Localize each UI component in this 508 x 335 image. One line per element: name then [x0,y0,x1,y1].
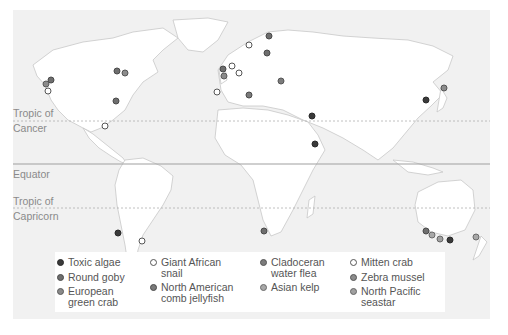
legend-item-mitten-crab: Mitten crab [350,257,425,268]
legend-label: Toxic algae [68,257,125,268]
legend-column-2: Giant AfricansnailNorth Americancomb jel… [150,257,233,307]
marker-mitten-crab [236,70,243,77]
legend-swatch-icon [350,259,357,266]
legend-column-1: Toxic algaeRound gobyEuropeangreen crab [57,257,125,311]
legend-column-4: Mitten crabZebra musselNorth Pacificseas… [350,257,425,311]
legend-label: Asian kelp [271,282,325,293]
equator-label: Equator [13,168,50,180]
legend-swatch-icon [57,259,64,266]
legend-label: water flea [271,268,325,279]
tropic-of-capricorn-label-line2: Capricorn [13,210,59,222]
tropic-of-capricorn-label-line1: Tropic of [13,195,59,207]
legend-item-round-goby: Round goby [57,272,125,283]
marker-toxic-algae [312,141,319,148]
legend-label: green crab [68,297,125,308]
legend-item-asian-kelp: Asian kelp [260,282,325,293]
legend-swatch-icon [57,274,64,281]
legend-label: Round goby [68,272,125,283]
marker-north-american-comb-jellyfish [246,92,253,99]
marker-mitten-crab [45,88,52,95]
marker-european-green-crab [221,73,228,80]
marker-asian-kelp [429,232,436,239]
marker-round-goby [220,66,227,73]
legend-label: Giant African [161,257,233,268]
marker-giant-african-snail [102,123,109,130]
tropic-of-cancer-label-line1: Tropic of [13,107,53,119]
marker-toxic-algae [447,237,454,244]
marker-giant-african-snail [139,238,146,245]
marker-zebra-mussel [122,70,129,77]
legend-label: North American [161,282,233,293]
legend-swatch-icon [260,284,267,291]
legend-item-north-pacific-seastar: North Pacificseastar [350,286,425,307]
marker-mitten-crab [214,89,221,96]
marker-round-goby [261,228,268,235]
marker-toxic-algae [115,230,122,237]
marker-zebra-mussel [441,85,448,92]
legend-item-european-green-crab: Europeangreen crab [57,286,125,307]
legend-item-zebra-mussel: Zebra mussel [350,272,425,283]
tropic-of-cancer-label: Tropic of Cancer [13,107,53,134]
legend-label: European [68,286,125,297]
tropic-of-capricorn-label: Tropic of Capricorn [13,195,59,222]
marker-north-pacific-seastar [437,236,444,243]
legend-swatch-icon [150,284,157,291]
legend-label: Zebra mussel [361,272,425,283]
legend-label: seastar [361,297,425,308]
marker-round-goby [114,68,121,75]
legend-swatch-icon [350,288,357,295]
marker-cladoceran-water-flea [278,78,285,85]
tropic-of-cancer-label-line2: Cancer [13,122,53,134]
legend-item-toxic-algae: Toxic algae [57,257,125,268]
legend-column-3: Cladoceranwater fleaAsian kelp [260,257,325,297]
legend-swatch-icon [57,288,64,295]
marker-mitten-crab [246,42,253,49]
marker-toxic-algae [423,97,430,104]
legend-label: Cladoceran [271,257,325,268]
legend-label: North Pacific [361,286,425,297]
legend-item-north-american-comb-jellyfish: North Americancomb jellyfish [150,282,233,303]
legend-label: snail [161,268,233,279]
marker-round-goby [266,33,273,40]
legend-label: Mitten crab [361,257,425,268]
legend-item-giant-african-snail: Giant Africansnail [150,257,233,278]
marker-round-goby [264,50,271,57]
legend-label: comb jellyfish [161,293,233,304]
legend-swatch-icon [150,259,157,266]
legend: Toxic algaeRound gobyEuropeangreen crab … [55,252,445,312]
marker-mitten-crab [229,63,236,70]
marker-toxic-algae [309,113,316,120]
legend-swatch-icon [350,274,357,281]
marker-asian-kelp [473,234,480,241]
marker-round-goby [113,98,120,105]
legend-swatch-icon [260,259,267,266]
marker-european-green-crab [43,81,50,88]
legend-item-cladoceran-water-flea: Cladoceranwater flea [260,257,325,278]
